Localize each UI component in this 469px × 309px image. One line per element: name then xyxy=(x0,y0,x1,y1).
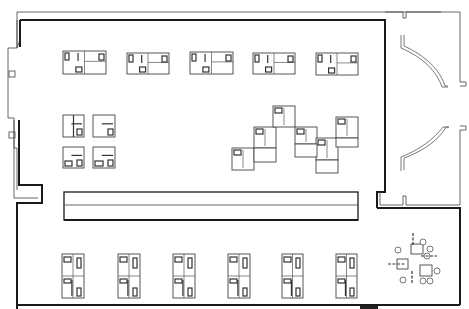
mid-unit-3 xyxy=(63,147,84,168)
entry-outer-wall xyxy=(385,12,466,86)
table-1 xyxy=(411,244,423,254)
cluster-unit-5 xyxy=(316,138,338,160)
cluster-link xyxy=(295,144,317,157)
unit-outline xyxy=(93,147,115,168)
chair-8 xyxy=(427,278,433,284)
mid-unit-4 xyxy=(93,147,115,168)
upper-door-inner xyxy=(401,35,448,87)
table-3 xyxy=(420,265,432,276)
top-unit-2 xyxy=(127,53,169,74)
right-lower-wall xyxy=(377,208,460,305)
unit-outline xyxy=(63,147,84,168)
bottom-unit-5 xyxy=(282,254,303,298)
bottom-row-unit-models xyxy=(62,254,357,298)
cluster-link xyxy=(316,160,338,173)
top-unit-1 xyxy=(63,51,106,74)
left-corridor-inner xyxy=(14,120,38,198)
cluster-unit-3 xyxy=(273,106,295,127)
pillar-1 xyxy=(9,71,15,77)
entry-lobby xyxy=(380,12,466,205)
chair-7 xyxy=(420,278,426,284)
mid-unit-2 xyxy=(93,115,115,137)
seating-area xyxy=(388,233,440,284)
cluster-unit-6 xyxy=(336,117,358,138)
bottom-unit-4 xyxy=(228,254,250,298)
unit-outline xyxy=(93,115,115,137)
cluster-unit-1 xyxy=(232,148,254,170)
bottom-unit-6 xyxy=(336,254,357,298)
chair-2 xyxy=(427,246,433,252)
chair-4 xyxy=(395,247,401,253)
top-unit-4 xyxy=(253,53,295,74)
chair-6 xyxy=(400,277,406,283)
cluster-link xyxy=(254,148,276,162)
chair-1 xyxy=(420,239,426,245)
lower-curved-door xyxy=(404,127,449,170)
chair-5 xyxy=(434,268,440,274)
floor-plan xyxy=(0,0,469,309)
top-unit-3 xyxy=(190,52,233,74)
cluster-unit-2 xyxy=(254,127,276,148)
left-corridor-wall xyxy=(17,120,42,309)
inner-wall xyxy=(20,20,385,208)
cluster-unit-4 xyxy=(295,127,317,144)
upper-curved-door xyxy=(404,35,448,86)
top-row-unit-models xyxy=(63,51,358,75)
middle-left-unit-models xyxy=(63,115,115,168)
stepped-cluster-units xyxy=(232,106,358,173)
bottom-unit-3 xyxy=(173,254,195,298)
entry-lower-wall xyxy=(380,126,466,205)
top-unit-5 xyxy=(316,53,358,75)
cluster-link xyxy=(336,138,358,147)
central-corridor xyxy=(64,192,358,220)
bottom-unit-2 xyxy=(118,254,140,298)
bottom-unit-1 xyxy=(62,254,84,298)
corridor-beam xyxy=(64,192,358,220)
